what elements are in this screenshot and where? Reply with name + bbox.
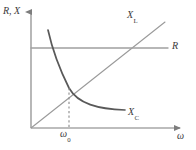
curves-group xyxy=(31,22,168,128)
reactance-frequency-figure: R, X XL R XC ω0 ω xyxy=(0,0,196,150)
plot-canvas xyxy=(0,0,196,150)
r-line-label: R xyxy=(172,41,178,51)
y-axis-label: R, X xyxy=(3,6,20,16)
xl-label-subscript: L xyxy=(133,17,137,24)
xl-line xyxy=(31,22,165,128)
xc-label-subscript: C xyxy=(134,114,139,121)
omega-subscript: 0 xyxy=(67,136,70,143)
x-axis-label: ω xyxy=(177,131,184,141)
omega-symbol: ω xyxy=(60,128,67,139)
xc-curve-label: XC xyxy=(128,107,139,120)
resonance-frequency-label: ω0 xyxy=(60,129,70,142)
xc-curve xyxy=(48,30,125,110)
xl-curve-label: XL xyxy=(127,10,137,23)
